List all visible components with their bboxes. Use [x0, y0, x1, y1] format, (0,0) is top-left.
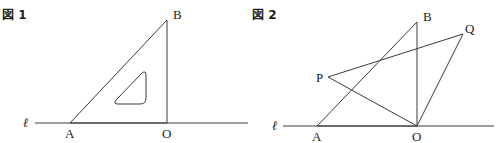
triangle-abo [317, 22, 417, 126]
set-square-triangle [70, 20, 167, 123]
point-a-label: A [312, 129, 322, 143]
diagram-canvas: 図 1 ℓ B A O 図 2 ℓ B Q P A O [0, 0, 498, 143]
point-p-label: P [316, 70, 323, 85]
point-a-label: A [65, 126, 75, 141]
point-b-label: B [173, 7, 182, 22]
triangle-poq [328, 34, 463, 126]
figure-2: 図 2 ℓ B Q P A O [252, 8, 494, 143]
point-o-label: O [412, 129, 421, 143]
set-square-hole [115, 72, 146, 104]
point-o-label: O [162, 126, 171, 141]
point-q-label: Q [465, 21, 475, 36]
figure-1: 図 1 ℓ B A O [2, 7, 248, 141]
point-b-label: B [423, 9, 432, 24]
figure-2-title: 図 2 [252, 8, 277, 22]
figure-1-title: 図 1 [2, 8, 27, 22]
line-l-label: ℓ [23, 115, 29, 130]
line-l-label: ℓ [272, 118, 278, 133]
